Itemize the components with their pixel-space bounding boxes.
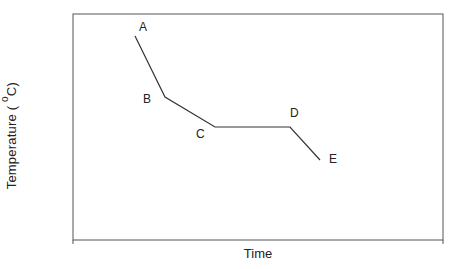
- y-axis-label: Temperature ( oC): [1, 56, 18, 216]
- point-label-a: A: [139, 20, 147, 34]
- point-label-e: E: [329, 152, 337, 166]
- x-axis-label: Time: [244, 246, 272, 261]
- degree-superscript: o: [0, 96, 10, 102]
- point-label-d: D: [290, 106, 299, 120]
- cooling-curve-line: [135, 36, 320, 160]
- point-label-b: B: [143, 92, 151, 106]
- cooling-curve-chart: [0, 0, 453, 269]
- point-label-c: C: [196, 127, 205, 141]
